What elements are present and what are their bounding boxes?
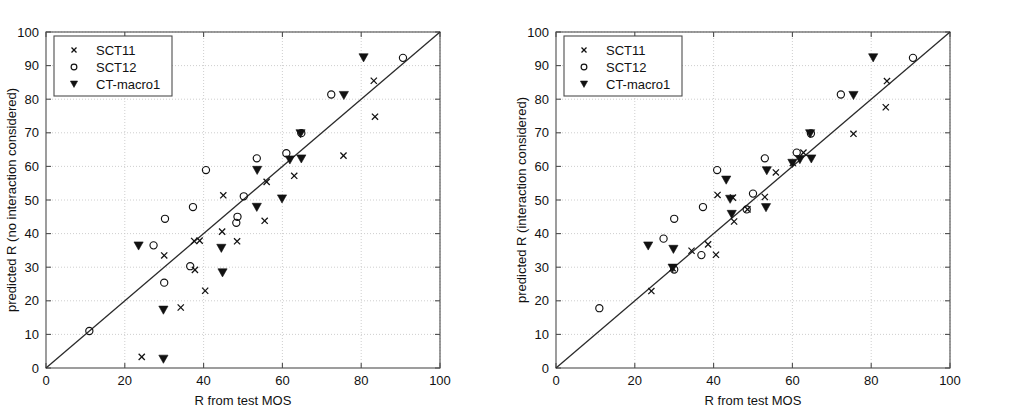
y-tick-label: 30 <box>25 260 39 275</box>
marker-x <box>372 114 378 120</box>
marker-circle <box>596 305 603 312</box>
marker-x <box>731 218 737 224</box>
marker-circle <box>399 54 406 61</box>
marker-triangle-down <box>807 155 816 163</box>
y-tick-label: 20 <box>535 293 549 308</box>
marker-x <box>161 252 167 258</box>
y-tick-label: 0 <box>542 361 549 376</box>
legend-label: CT-macro1 <box>606 77 670 92</box>
marker-triangle-down <box>722 176 731 184</box>
series-ct-macro1 <box>134 54 368 364</box>
legend-label: SCT11 <box>606 43 646 58</box>
marker-x <box>192 267 198 273</box>
marker-x <box>139 354 145 360</box>
scatter-plot-no-interaction: 0102030405060708090100020406080100R from… <box>0 0 511 420</box>
y-tick-label: 80 <box>535 92 549 107</box>
y-tick-label: 90 <box>535 58 549 73</box>
legend-label: SCT12 <box>96 60 136 75</box>
marker-x <box>371 78 377 84</box>
legend-label: CT-macro1 <box>96 77 160 92</box>
legend: SCT11SCT12CT-macro1 <box>54 36 172 96</box>
series-sct11 <box>139 78 378 360</box>
scatter-plot-interaction: 0102030405060708090100020406080100R from… <box>510 0 1021 420</box>
x-tick-label: 0 <box>42 373 49 388</box>
marker-triangle-down <box>359 54 368 62</box>
marker-circle <box>837 91 844 98</box>
x-tick-label: 20 <box>118 373 132 388</box>
axis-titles: R from test MOSpredicted R (no interacti… <box>4 88 292 408</box>
marker-circle <box>793 149 800 156</box>
figure-scatter-pair: 0102030405060708090100020406080100R from… <box>0 0 1021 420</box>
marker-triangle-down <box>218 269 227 277</box>
y-tick-label: 90 <box>25 58 39 73</box>
marker-circle <box>698 252 705 259</box>
marker-triangle-down <box>669 245 678 253</box>
marker-circle <box>660 235 667 242</box>
legend-label: SCT11 <box>96 43 136 58</box>
data-points <box>86 54 407 364</box>
marker-x <box>234 238 240 244</box>
x-tick-label: 100 <box>429 373 451 388</box>
chart-panel-left: 0102030405060708090100020406080100R from… <box>0 0 511 420</box>
x-tick-label: 60 <box>785 373 799 388</box>
legend-label: SCT12 <box>606 60 646 75</box>
marker-triangle-down <box>849 91 858 99</box>
marker-x <box>178 304 184 310</box>
marker-circle <box>328 91 335 98</box>
marker-triangle-down <box>253 166 262 174</box>
marker-circle <box>161 279 168 286</box>
marker-triangle-down <box>726 195 735 203</box>
marker-triangle-down <box>644 242 653 250</box>
marker-triangle-down <box>277 195 286 203</box>
x-tick-label: 40 <box>706 373 720 388</box>
marker-x <box>197 238 203 244</box>
y-tick-label: 50 <box>25 193 39 208</box>
marker-triangle-down <box>134 242 143 250</box>
marker-x <box>884 78 890 84</box>
marker-x <box>219 228 225 234</box>
y-tick-label: 10 <box>25 327 39 342</box>
marker-triangle-down <box>252 203 261 211</box>
x-tick-label: 40 <box>196 373 210 388</box>
marker-circle <box>761 155 768 162</box>
marker-triangle-down <box>762 167 771 175</box>
x-tick-label: 80 <box>864 373 878 388</box>
marker-circle <box>187 263 194 270</box>
x-tick-label: 80 <box>354 373 368 388</box>
marker-x <box>714 192 720 198</box>
marker-x <box>850 131 856 137</box>
y-tick-label: 60 <box>535 159 549 174</box>
marker-x <box>262 218 268 224</box>
marker-circle <box>253 155 260 162</box>
marker-x <box>220 192 226 198</box>
marker-triangle-down <box>761 204 770 212</box>
y-axis-title: predicted R (no interaction considered) <box>4 88 19 312</box>
marker-triangle-down <box>217 244 226 252</box>
marker-triangle-down <box>159 355 168 363</box>
legend: SCT11SCT12CT-macro1 <box>564 36 682 96</box>
marker-triangle-down <box>297 155 306 163</box>
chart-panel-right: 0102030405060708090100020406080100R from… <box>510 0 1021 420</box>
marker-circle <box>699 203 706 210</box>
marker-circle <box>714 166 721 173</box>
y-tick-label: 60 <box>25 159 39 174</box>
marker-x <box>762 194 768 200</box>
x-tick-label: 20 <box>628 373 642 388</box>
x-axis-title: R from test MOS <box>705 393 802 408</box>
y-tick-label: 0 <box>32 361 39 376</box>
x-axis-title: R from test MOS <box>195 393 292 408</box>
y-tick-label: 70 <box>25 125 39 140</box>
marker-x <box>202 288 208 294</box>
marker-triangle-down <box>869 54 878 62</box>
y-tick-label: 30 <box>535 260 549 275</box>
x-tick-label: 0 <box>552 373 559 388</box>
marker-circle <box>671 215 678 222</box>
y-tick-label: 70 <box>535 125 549 140</box>
y-tick-label: 80 <box>25 92 39 107</box>
marker-circle <box>909 54 916 61</box>
marker-circle <box>161 215 168 222</box>
marker-x <box>883 104 889 110</box>
marker-x <box>648 288 654 294</box>
marker-circle <box>150 242 157 249</box>
y-tick-label: 20 <box>25 293 39 308</box>
